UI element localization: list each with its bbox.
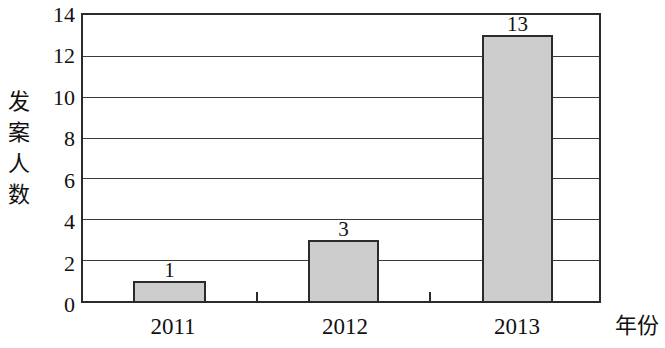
y-axis-title-char-3: 人 [3,148,35,179]
bar-2012: 3 [308,240,379,301]
bar-2011: 1 [133,281,206,301]
y-tick-label-10: 10 [40,87,75,109]
bar-value-2013: 13 [507,13,528,36]
y-axis-title-char-2: 案 [3,117,35,148]
y-axis-title-char-4: 数 [3,179,35,210]
x-axis-tick-1 [256,292,258,301]
bar-chart: 发 案 人 数 14 12 10 8 6 4 2 0 1 3 13 [0,0,665,348]
x-label-2013: 2013 [494,314,540,340]
x-axis-title: 年份 [615,313,659,339]
y-tick-label-4: 4 [40,211,75,233]
bar-2013: 13 [482,35,553,301]
y-tick-label-8: 8 [40,128,75,150]
y-axis-title: 发 案 人 数 [3,86,35,210]
y-tick-label-12: 12 [40,45,75,67]
y-axis-title-char-1: 发 [3,86,35,117]
y-tick-label-6: 6 [40,170,75,192]
plot-area: 1 3 13 [81,13,601,303]
x-label-2011: 2011 [150,314,195,340]
x-label-2012: 2012 [322,314,368,340]
bar-value-2012: 3 [338,218,349,241]
bar-value-2011: 1 [164,259,175,282]
y-tick-label-14: 14 [40,4,75,26]
y-tick-label-2: 2 [40,253,75,275]
x-axis-tick-2 [429,292,431,301]
y-tick-label-0: 0 [40,294,75,316]
y-axis-tick-labels: 14 12 10 8 6 4 2 0 [40,0,75,348]
